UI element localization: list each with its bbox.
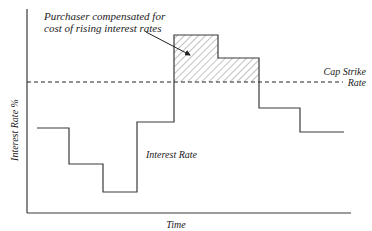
interest-rate-label: Interest Rate <box>145 149 198 160</box>
y-axis-label: Interest Rate % <box>9 99 20 162</box>
annotation-text-line1: Purchaser compensated for <box>43 10 166 22</box>
x-axis-label: Time <box>166 219 186 230</box>
cap-strike-label-line2: Rate <box>347 77 367 88</box>
cap-strike-label-line1: Cap Strike <box>324 66 367 77</box>
annotation-text-line2: cost of rising interest rates <box>44 22 162 34</box>
cap-diagram: Purchaser compensated for cost of rising… <box>0 0 372 231</box>
